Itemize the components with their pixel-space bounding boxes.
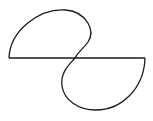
lower-lobe-curve (62, 58, 145, 110)
s-curve-diagram (0, 0, 153, 121)
upper-lobe-curve (9, 10, 91, 58)
